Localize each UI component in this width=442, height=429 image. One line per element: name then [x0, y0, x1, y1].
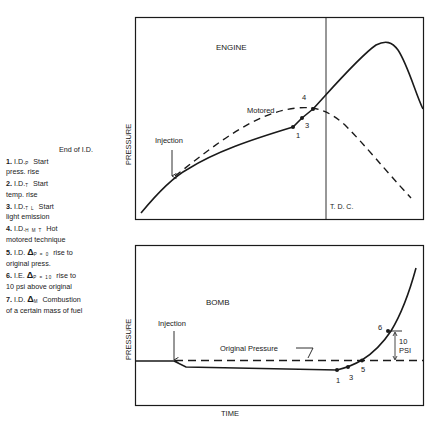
- bomb-point-5-label: 5: [361, 365, 365, 374]
- motored-label: Motored: [247, 106, 275, 115]
- motored-curve: [175, 108, 411, 198]
- engine-point-1-label: 1: [296, 131, 300, 140]
- engine-injection-label: Injection: [155, 136, 183, 145]
- psi-unit-label: PSI: [399, 346, 411, 355]
- bomb-point-1: [335, 368, 339, 372]
- engine-frame: [136, 18, 424, 220]
- time-xlabel: TIME: [221, 409, 239, 418]
- bomb-point-5: [360, 359, 364, 363]
- engine-point-3-label: 3: [305, 121, 309, 130]
- engine-point-1: [291, 125, 295, 129]
- engine-title: ENGINE: [216, 43, 247, 52]
- bomb-point-1-label: 1: [336, 376, 340, 385]
- engine-ylabel: PRESSURE: [124, 124, 133, 165]
- original-pressure-label: Original Pressure: [220, 344, 278, 353]
- bomb-point-3-label: 3: [349, 373, 353, 382]
- psi-value-label: 10: [399, 337, 407, 346]
- bomb-title: BOMB: [206, 298, 230, 307]
- engine-point-4-label: 4: [302, 93, 306, 102]
- bomb-point-3: [346, 365, 350, 369]
- bomb-point-6-label: 6: [378, 323, 382, 332]
- bomb-ylabel: PRESSURE: [124, 319, 133, 360]
- tdc-label: T. D. C.: [330, 203, 353, 210]
- bomb-panel: BOMB PRESSURE Original Pressure Injectio…: [124, 246, 424, 406]
- original-pressure-leader: [296, 348, 313, 358]
- bomb-injection-label: Injection: [158, 319, 186, 328]
- engine-point-4: [311, 107, 315, 111]
- pressure-time-diagrams: ENGINE PRESSURE T. D. C. Motored Injecti…: [0, 0, 442, 429]
- engine-pressure-curve: [141, 42, 423, 213]
- engine-point-3: [300, 116, 304, 120]
- engine-panel: ENGINE PRESSURE T. D. C. Motored Injecti…: [124, 18, 424, 220]
